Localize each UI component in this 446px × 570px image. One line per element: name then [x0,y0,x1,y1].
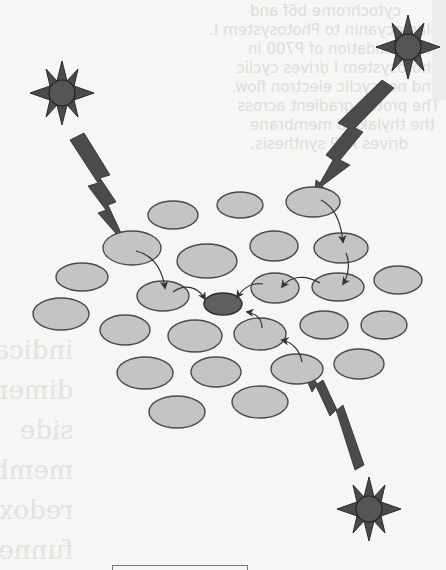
reaction-center [204,293,242,315]
caption-box-edge [112,565,248,570]
sun-icon [337,477,401,541]
lightning-bolt-icon [305,371,364,470]
sun-icon [376,15,440,79]
lightning-bolt-icon [70,133,127,246]
sun-icon [30,61,94,125]
